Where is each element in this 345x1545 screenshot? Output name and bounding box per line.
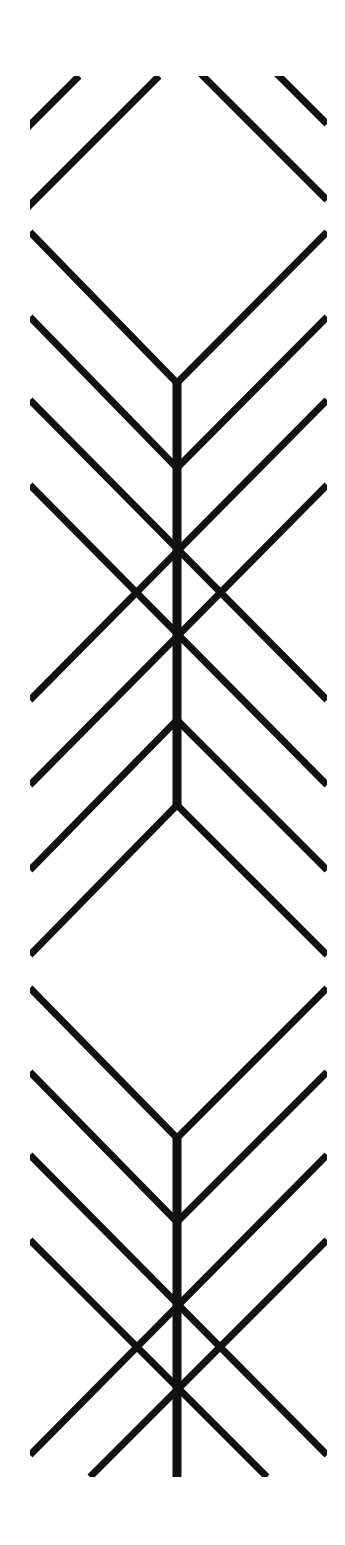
diagonal-line <box>20 76 79 135</box>
diagonal-line <box>193 66 327 200</box>
diagonal-line <box>20 76 159 215</box>
chevron-pattern-graphic <box>0 0 345 1545</box>
pattern-artwork <box>0 0 345 1545</box>
diagonal-line <box>269 66 327 124</box>
